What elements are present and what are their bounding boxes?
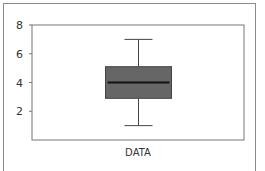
y-tick-label: 8 — [16, 19, 23, 32]
box-plot-chart: 2468 DATA — [0, 0, 265, 171]
x-category-label: DATA — [125, 147, 151, 158]
y-tick-label: 4 — [16, 77, 23, 90]
y-axis: 2468 — [16, 19, 32, 118]
y-tick-label: 2 — [16, 105, 23, 118]
y-tick-label: 6 — [16, 48, 23, 61]
box-series — [106, 39, 172, 125]
